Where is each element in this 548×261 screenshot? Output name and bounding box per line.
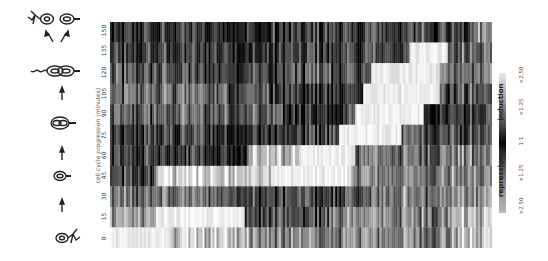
y-tick-150: 150	[100, 21, 107, 41]
cbar-tick-repression-1-25: ×1.25	[518, 161, 524, 185]
swarmer-daughter-icon	[28, 11, 54, 24]
cbar-tick-induction-1-25: ×1.25	[518, 95, 524, 119]
repression-label: repression	[497, 151, 505, 201]
y-tick-105: 105	[100, 84, 107, 104]
cell-cycle-diagram	[0, 0, 100, 261]
y-tick-60: 60	[100, 146, 107, 166]
y-tick-120: 120	[100, 63, 107, 83]
induction-label: induction	[497, 82, 505, 122]
y-tick-30: 30	[100, 187, 107, 207]
cbar-tick-induction-2-50: ×2.50	[518, 63, 524, 87]
y-tick-90: 90	[100, 104, 107, 124]
cbar-tick-1-1: 1:1	[518, 129, 524, 153]
y-tick-75: 75	[100, 126, 107, 146]
stalked-daughter-icon	[60, 14, 80, 24]
y-tick-45: 45	[100, 166, 107, 186]
late-predivisional-icon	[31, 66, 80, 76]
figure: cell cycle progression (minutes) 150 135…	[0, 0, 548, 261]
heatmap-canvas	[110, 22, 492, 248]
y-tick-15: 15	[100, 207, 107, 227]
swarmer-cell-icon	[56, 229, 80, 243]
cbar-tick-repression-2-50: ×2.50	[518, 194, 524, 218]
y-tick-135: 135	[100, 41, 107, 61]
predivisional-icon	[51, 117, 76, 129]
stalked-cell-icon	[54, 172, 71, 181]
y-tick-0: 0	[100, 229, 107, 249]
expression-heatmap	[110, 22, 492, 248]
